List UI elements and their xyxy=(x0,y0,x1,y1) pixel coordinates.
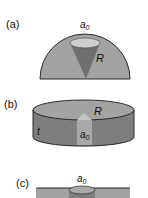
cylinder-top xyxy=(69,186,95,194)
panel-c: (c) a0 xyxy=(16,173,130,198)
cone-opening xyxy=(70,38,100,48)
panel-a-label: (a) xyxy=(6,18,19,30)
figure: (a) a0 R (b) R t a0 (c) a0 xyxy=(0,0,148,198)
panel-c-aperture-label: a0 xyxy=(77,173,87,185)
panel-a: (a) a0 R xyxy=(6,18,130,79)
panel-c-label: (c) xyxy=(16,177,29,189)
panel-b: (b) R t a0 xyxy=(4,98,134,146)
panel-b-radius-label: R xyxy=(94,105,102,117)
panel-a-radius-label: R xyxy=(96,52,104,64)
panel-b-label: (b) xyxy=(4,98,17,110)
panel-a-aperture-label: a0 xyxy=(80,19,90,31)
